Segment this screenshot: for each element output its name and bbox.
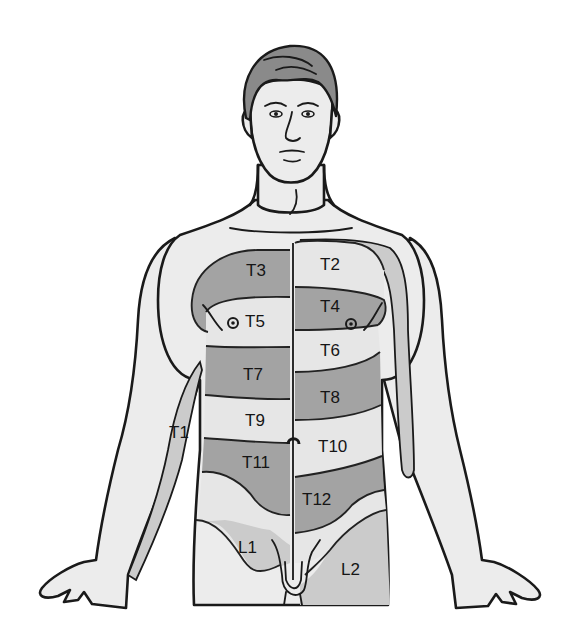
label-T2: T2 [320, 255, 340, 274]
label-T9: T9 [245, 411, 265, 430]
label-T12: T12 [302, 490, 331, 509]
label-L1: L1 [238, 538, 257, 557]
label-T11: T11 [242, 453, 270, 472]
label-T5: T5 [245, 312, 265, 331]
label-T10: T10 [318, 437, 347, 456]
head [243, 46, 340, 183]
label-T8: T8 [320, 388, 340, 407]
label-T1: T1 [169, 423, 189, 442]
label-T3: T3 [246, 261, 266, 280]
label-L2: L2 [341, 560, 360, 579]
dermatome-figure: T1 T2 T3 T4 T5 T6 T7 T8 T9 T10 T11 T12 L… [0, 0, 582, 622]
label-T4: T4 [320, 297, 340, 316]
label-T6: T6 [320, 341, 340, 360]
right-dermatome-bands [295, 241, 390, 605]
label-T7: T7 [243, 365, 263, 384]
